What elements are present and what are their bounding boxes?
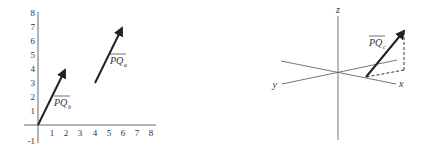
vector-pq-b-label: PQ b <box>53 96 71 110</box>
plot-2d: 1 2 3 4 5 6 7 8 8 7 6 5 4 3 2 1 -1 PQ b <box>24 8 156 146</box>
x-tick-labels: 1 2 3 4 5 6 7 8 <box>50 128 154 138</box>
x-axis-label: x <box>398 78 404 89</box>
vector-subscript: a <box>124 62 127 68</box>
vector-label: PQ <box>109 55 124 66</box>
y-tick: 1 <box>31 106 36 116</box>
vector-label: PQ <box>368 37 383 48</box>
y-tick: -1 <box>28 136 36 146</box>
vector-label: PQ <box>53 97 68 108</box>
x-tick: 8 <box>149 128 154 138</box>
x-tick: 5 <box>107 128 112 138</box>
x-tick: 1 <box>50 128 55 138</box>
x-tick: 2 <box>64 128 69 138</box>
diagram-canvas: 1 2 3 4 5 6 7 8 8 7 6 5 4 3 2 1 -1 PQ b <box>0 0 430 152</box>
x-tick: 7 <box>135 128 140 138</box>
x-tick: 4 <box>93 128 98 138</box>
y-tick: 8 <box>31 8 36 18</box>
plot-3d: z y x PQ c <box>272 4 404 140</box>
y-tick: 5 <box>31 50 36 60</box>
y-tick: 3 <box>31 78 36 88</box>
vector-pq-a-label: PQ a <box>109 54 127 68</box>
z-axis-label: z <box>335 4 340 15</box>
vector-subscript: b <box>68 104 71 110</box>
x-tick: 3 <box>78 128 83 138</box>
vector-subscript: c <box>383 44 386 50</box>
y-tick: 6 <box>31 36 36 46</box>
y-tick: 2 <box>31 92 36 102</box>
y-axis-label: y <box>272 79 278 90</box>
y-tick: 7 <box>31 22 36 32</box>
vector-pq-c-label: PQ c <box>368 36 386 50</box>
y-tick: 4 <box>31 64 36 74</box>
x-tick: 6 <box>121 128 126 138</box>
